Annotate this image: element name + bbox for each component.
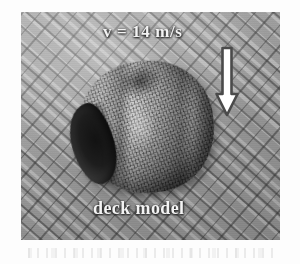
deck-model-caption: deck model	[93, 198, 185, 219]
down-arrow-icon	[214, 46, 240, 118]
figure-root: v = 14 m/s deck model	[0, 0, 300, 264]
flow-direction-arrow	[214, 46, 240, 118]
scan-artifact-band	[28, 248, 278, 258]
velocity-label: v = 14 m/s	[103, 22, 182, 42]
deck-model-photograph: v = 14 m/s deck model	[21, 12, 280, 240]
deck-model-object	[66, 57, 216, 197]
